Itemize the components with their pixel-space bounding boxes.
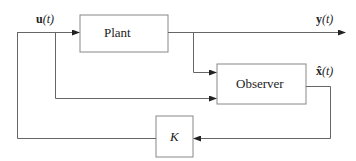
input-signal-arg: (t) xyxy=(43,12,54,26)
input-signal-symbol: u xyxy=(36,12,43,26)
estimate-signal-label: x̂(t) xyxy=(316,64,333,79)
plant-label: Plant xyxy=(104,25,131,41)
input-signal-label: u(t) xyxy=(36,12,54,27)
output-to-observer-line xyxy=(194,33,217,73)
estimate-signal-arg: (t) xyxy=(322,64,333,78)
observer-label: Observer xyxy=(236,76,284,92)
output-signal-label: y(t) xyxy=(316,12,333,27)
output-signal-arg: (t) xyxy=(322,12,333,26)
gain-label: K xyxy=(170,129,179,145)
